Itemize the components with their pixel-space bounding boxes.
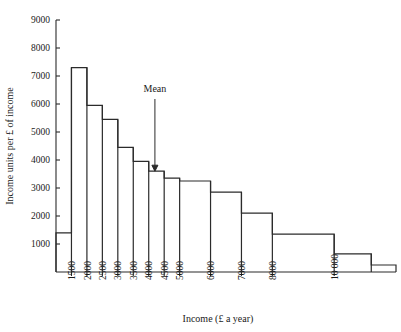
- x-tick-label: 3500: [129, 261, 139, 280]
- x-tick-label: 6000: [206, 261, 216, 280]
- chart-container: 100020003000400050006000700080009000 150…: [0, 0, 401, 332]
- y-tick-label: 3000: [31, 183, 50, 193]
- y-tick-label: 5000: [31, 127, 50, 137]
- y-tick-label: 1000: [31, 239, 50, 249]
- x-tick-label: 2000: [83, 261, 93, 280]
- y-tick-label: 8000: [31, 43, 50, 53]
- y-tick-label: 9000: [31, 15, 50, 25]
- mean-label: Mean: [144, 83, 167, 94]
- histogram-chart: 100020003000400050006000700080009000 150…: [0, 0, 401, 332]
- histogram-bars: [56, 68, 396, 272]
- mean-annotation: Mean: [144, 83, 167, 171]
- y-tick-label: 2000: [31, 211, 50, 221]
- histogram-outline: [56, 68, 396, 272]
- y-tick-label: 4000: [31, 155, 50, 165]
- y-axis-title: Income units per £ of income: [4, 87, 15, 205]
- x-tick-label: 7000: [237, 261, 247, 280]
- mean-arrow-head: [152, 165, 158, 171]
- x-axis: 1500200025003000350040004500500060007000…: [56, 254, 396, 280]
- x-axis-title: Income (£ a year): [183, 313, 254, 325]
- y-tick-label: 7000: [31, 71, 50, 81]
- y-tick-label: 6000: [31, 99, 50, 109]
